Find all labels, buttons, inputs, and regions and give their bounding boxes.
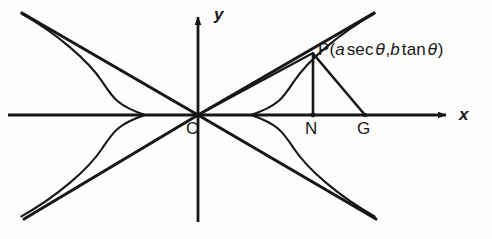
y-axis-label: y <box>214 6 223 23</box>
asymptote-down-right-line <box>198 115 376 219</box>
p-label-term1-var: a <box>335 40 345 59</box>
point-label-P-expression: P(asecθ,btanθ) <box>318 41 443 58</box>
figure-canvas <box>0 0 492 239</box>
segment-PG-line <box>313 54 365 116</box>
point-label-N: N <box>305 120 317 137</box>
point-marker-C <box>195 112 200 117</box>
p-label-suffix: ) <box>438 40 444 59</box>
segment-CP-line <box>198 53 313 115</box>
p-label-term2-fn: tan <box>402 40 426 59</box>
p-label-term1-fn: sec <box>347 40 374 59</box>
p-label-term2-var: b <box>390 40 400 59</box>
point-marker-G <box>363 113 367 117</box>
point-label-C: C <box>186 120 198 137</box>
construction-segment-group <box>198 53 365 115</box>
asymptote-down-left-line <box>24 115 198 219</box>
p-label-term2-angle: θ <box>428 40 438 59</box>
p-label-prefix: P( <box>318 40 335 59</box>
hyperbola-figure: y x C N G P(asecθ,btanθ) <box>0 0 492 239</box>
p-label-term1-angle: θ <box>376 40 386 59</box>
asymptote-up-left-line <box>22 13 198 115</box>
point-label-G: G <box>357 120 370 137</box>
point-marker-N <box>311 113 316 118</box>
x-axis-label: x <box>459 106 468 123</box>
